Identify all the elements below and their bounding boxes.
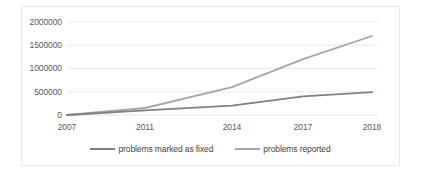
legend-label-problems-marked-as-fixed: problems marked as fixed (118, 144, 213, 154)
legend-label-problems-reported: problems reported (263, 144, 330, 154)
legend-swatch-icon-reported (235, 148, 260, 150)
legend-item-problems-marked-as-fixed[interactable]: problems marked as fixed (90, 144, 213, 154)
series-line-problems-marked-as-fixed (67, 92, 372, 115)
series-line-problems-reported (67, 36, 372, 115)
legend-item-problems-reported[interactable]: problems reported (235, 144, 330, 154)
legend-swatch-icon-fixed (90, 148, 115, 150)
chart-legend: problems marked as fixed problems report… (21, 144, 400, 154)
gridlines (67, 22, 378, 115)
